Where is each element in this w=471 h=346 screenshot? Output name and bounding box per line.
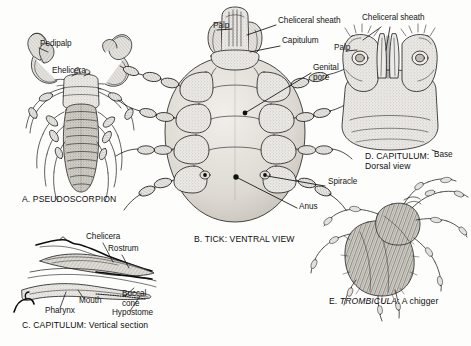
panel-d-capitulum-dorsal	[342, 24, 438, 152]
label-palp-d: Palp	[334, 43, 350, 53]
label-mouth: Mouth	[79, 296, 102, 306]
figure-plate: Pedipalp Ehelicera A. PSEUDOSCORPION Pal…	[0, 0, 471, 346]
label-palp-b: Palp	[213, 21, 229, 31]
label-spiracle: Spiracle	[328, 177, 357, 187]
illustration-canvas	[0, 0, 471, 346]
caption-e-suffix: : A chigger	[397, 296, 438, 306]
caption-panel-d: D. CAPITULUM: Dorsal view	[365, 152, 429, 171]
label-genital-pore: Genital pore	[313, 63, 339, 82]
label-capitulum-b: Capitulum	[282, 36, 319, 46]
label-chelicera-a: Ehelicera	[52, 66, 86, 76]
caption-panel-b: B. TICK: VENTRAL VIEW	[194, 234, 294, 244]
label-buccal-cone: Buccal cone	[122, 289, 146, 308]
caption-panel-c: C. CAPITULUM: Vertical section	[22, 320, 148, 330]
pseudoscorpion-abdomen	[63, 104, 98, 192]
caption-panel-a: A. PSEUDOSCORPION	[22, 194, 116, 204]
chigger-cephalothorax	[376, 203, 420, 245]
label-hypostome: Hypostome	[112, 308, 153, 318]
label-cheliceral-sheath-d: Cheliceral sheath	[362, 13, 425, 23]
caption-panel-e: E. TROMBICULA: A chigger	[329, 296, 438, 306]
caption-e-prefix: E.	[329, 296, 340, 306]
caption-e-genus: TROMBICULA	[340, 296, 397, 306]
label-cheliceral-sheath-b: Cheliceral sheath	[278, 16, 341, 26]
label-pharynx: Pharynx	[45, 306, 75, 316]
label-base: Base	[434, 150, 453, 160]
label-pedipalp: Pedipalp	[40, 39, 72, 49]
label-anus: Anus	[299, 202, 318, 212]
label-rostrum: Rostrum	[108, 244, 139, 254]
label-chelicera-c: Chelicera	[86, 232, 120, 242]
